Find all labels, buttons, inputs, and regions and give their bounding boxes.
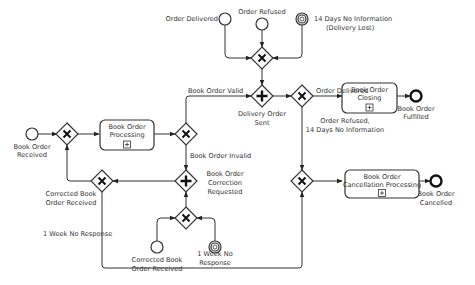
event-label: (Delivery Lost) [326,24,374,32]
event-label: 1 Week No [197,250,232,258]
event-label: Fulfilled [403,113,429,121]
xor-gateway-cancellation[interactable] [291,170,313,192]
flow-label-invalid: Book Order Invalid [190,152,251,160]
flow-label-refused: 14 Days No Information [306,126,384,134]
gateway-label: Sent [254,119,269,127]
gateway-label: Correction [208,179,242,187]
timer-event-1-week[interactable]: 1 Week No Response [197,241,232,267]
flow-corrected-event [157,218,175,241]
gateway-label: Requested [207,188,242,196]
end-event-fulfilled[interactable]: Book Order Fulfilled [397,91,435,122]
xor-gateway-merge-start[interactable] [56,123,78,145]
xor-gateway-delivery-outcome[interactable] [291,85,313,107]
flow-timer-1week [197,218,215,241]
bpmn-diagram: Book Order Received Order Delivered Orde… [0,0,475,285]
flow-label-delivered: Order Delivered [316,87,368,95]
subprocess-expand-icon[interactable] [366,104,373,111]
event-label: Response [199,259,231,267]
event-label: Received [17,151,47,159]
start-event-book-order-received[interactable]: Book Order Received [13,128,51,159]
xor-gateway-validity[interactable] [175,123,197,145]
flow-label-no-response: 1 Week No Response [43,230,112,238]
end-event-cancelled[interactable]: Book Order Cancelled [417,176,455,208]
message-event-corrected-received[interactable]: Corrected Book Order Received [132,241,183,273]
timer-event-14-days[interactable]: 14 Days No Information (Delivery Lost) [296,13,392,32]
task-book-order-processing[interactable]: Book Order Processing [100,120,154,150]
event-label: Order Received [132,265,183,273]
subprocess-expand-icon[interactable] [379,190,386,197]
flow-label-refused: Order Refused, [320,117,369,125]
event-label: Order Delivered [166,15,218,23]
gateway-label: Corrected Book [46,190,97,198]
event-label: Book Order [417,190,455,198]
subprocess-expand-icon[interactable] [124,141,131,148]
event-label: Order Refused [238,8,285,16]
parallel-gateway-correction-requested[interactable]: Book Order Correction Requested [175,170,244,196]
gateway-label: Order Received [46,199,97,207]
flow-delivered-event [225,25,251,58]
xor-gateway-delivery-events[interactable] [251,47,273,69]
task-label: Closing [357,94,381,102]
task-label: Book Order [108,123,146,131]
event-label: Book Order [397,105,435,113]
flow-merge-to-xor1 [67,145,92,181]
flow-timer-14 [273,25,302,58]
task-book-order-cancellation[interactable]: Book Order Cancellation Processing [343,170,421,198]
event-label: Cancelled [420,199,452,207]
task-label: Processing [109,131,144,139]
task-label: Book Order [363,173,401,181]
message-event-order-delivered[interactable]: Order Delivered [166,13,231,25]
event-label: Book Order [13,143,51,151]
event-label: Corrected Book [132,256,183,264]
message-event-order-refused[interactable]: Order Refused [238,8,285,30]
xor-gateway-response[interactable] [175,207,197,229]
task-label: Cancellation Processing [343,181,421,189]
gateway-label: Delivery Order [238,110,286,118]
event-label: 14 Days No Information [314,15,392,23]
gateway-label: Book Order [206,170,244,178]
flow-label-valid: Book Order Valid [188,87,243,95]
xor-gateway-corrected-received[interactable]: Corrected Book Order Received [46,170,113,207]
parallel-gateway-delivery-sent[interactable]: Delivery Order Sent [238,85,286,127]
